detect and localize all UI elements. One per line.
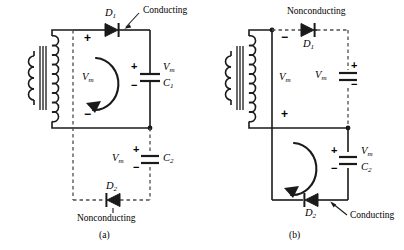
annotation-nonconducting-b: Nonconducting <box>287 7 346 17</box>
leader-arrowhead-conducting-b <box>330 202 336 208</box>
circuit-graphics <box>0 0 404 250</box>
capacitor-c1-voltage-a: Vm <box>163 62 175 74</box>
diode-d2-label-a: D2 <box>106 181 117 193</box>
annotation-conducting-b: Conducting <box>350 211 394 221</box>
capacitor-c2-name-a: C2 <box>163 153 174 165</box>
capacitor-c1-plus-a: + <box>131 61 137 72</box>
secondary-voltage-label-b: Vm <box>279 72 291 84</box>
c2-letter-a: C <box>163 152 170 163</box>
transformer-core-b <box>237 46 243 110</box>
capacitor-c2-a <box>141 156 159 163</box>
d1-letter-a: D <box>105 7 113 18</box>
figure-canvas: + − Vm D1 Conducting + − Vm C1 + − Vm C2… <box>0 0 404 250</box>
diode-d1-label-a: D1 <box>105 8 116 20</box>
c2-sub-b: 2 <box>368 166 372 174</box>
d1-sub-b: 1 <box>311 43 315 51</box>
junction-dot-b-mid <box>346 126 351 131</box>
capacitor-c1-plus-b: + <box>351 60 357 71</box>
transformer-primary-coil-b <box>225 51 231 105</box>
d2-sub-b: 2 <box>313 212 317 220</box>
capacitor-c2-voltage-b: Vm <box>361 146 373 158</box>
capacitor-c1-minus-a: − <box>131 80 137 91</box>
secondary-voltage-label-a: Vm <box>82 72 94 84</box>
capacitor-c2-b <box>339 157 357 164</box>
diode-d2-a <box>106 193 120 207</box>
polarity-plus-secondary-b: + <box>281 108 288 120</box>
annotation-nonconducting-a: Nonconducting <box>77 214 136 224</box>
diode-d2-label-b: D2 <box>305 208 316 220</box>
vm-sub-b: m <box>285 76 290 84</box>
polarity-minus-secondary-a: − <box>84 108 91 120</box>
panel-b <box>225 23 357 215</box>
c2-vm-sub-b: m <box>367 150 372 158</box>
capacitor-c1-a <box>140 74 160 81</box>
figure-caption-b: (b) <box>289 231 300 241</box>
leader-conducting-a <box>126 13 139 27</box>
figure-caption-a: (a) <box>99 231 110 241</box>
transformer-primary-coil <box>28 51 34 105</box>
c1-letter-a: C <box>163 77 170 88</box>
capacitor-c2-voltage-a: Vm <box>112 153 124 165</box>
d2-letter-a: D <box>106 180 114 191</box>
capacitor-c2-name-b: C2 <box>361 162 372 174</box>
polarity-plus-secondary-a: + <box>84 32 91 44</box>
c2-letter-b: C <box>361 161 368 172</box>
diode-d1-label-b: D1 <box>303 39 314 51</box>
capacitor-c2-minus-b: − <box>331 163 337 174</box>
diode-d1-b <box>301 23 317 37</box>
diode-d2-b <box>304 193 318 207</box>
capacitor-c2-plus-b: + <box>331 145 337 156</box>
capacitor-c2-plus-a: + <box>133 144 139 155</box>
d2-letter-b: D <box>305 207 313 218</box>
transformer-core <box>40 46 46 110</box>
c1-vm-sub-a: m <box>169 66 174 74</box>
d2-sub-a: 2 <box>114 185 118 193</box>
c1-sub-a: 1 <box>170 82 174 90</box>
d1-sub-a: 1 <box>113 12 117 20</box>
capacitor-c1-voltage-b: Vm <box>315 70 327 82</box>
capacitor-c1-minus-b: − <box>351 79 357 90</box>
panel-a <box>28 13 160 213</box>
c1-vm-sub-b: m <box>321 74 326 82</box>
c2-vm-sub-a: m <box>118 157 123 165</box>
transformer-secondary-coil <box>52 36 59 122</box>
c2-sub-a: 2 <box>170 157 174 165</box>
capacitor-c1-name-a: C1 <box>163 78 174 90</box>
current-loop-arrowhead-b <box>284 186 299 198</box>
transformer-secondary-coil-b <box>249 36 256 122</box>
d1-letter-b: D <box>303 38 311 49</box>
diode-d1-a <box>105 23 120 37</box>
annotation-conducting-a: Conducting <box>143 6 187 16</box>
vm-sub-a: m <box>88 76 93 84</box>
capacitor-c2-minus-a: − <box>133 162 139 173</box>
polarity-minus-secondary-b: − <box>281 31 288 43</box>
